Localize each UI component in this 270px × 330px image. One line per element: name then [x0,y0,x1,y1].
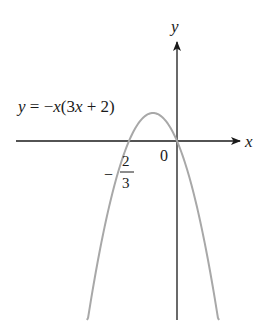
graph-figure: y x 0 y = −x(3x + 2) − 2 3 [0,0,270,330]
root-label-numerator: 2 [122,153,130,169]
origin-label: 0 [160,147,168,164]
equation-label: y = −x(3x + 2) [16,97,115,116]
root-label-denominator: 3 [122,175,130,191]
parabola-curve [87,113,219,320]
x-axis-label: x [244,132,253,151]
y-axis-label: y [169,17,179,36]
root-label-sign: − [104,166,113,183]
